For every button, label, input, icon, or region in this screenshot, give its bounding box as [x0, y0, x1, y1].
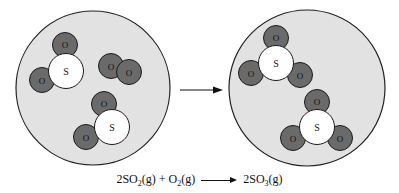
products-container: O O O S O O O S [229, 10, 385, 166]
atom-label-o: O [101, 99, 108, 109]
atom-label-o: O [39, 76, 46, 86]
atom-label-s: S [314, 122, 320, 133]
product-so3: 2SO3(g) [243, 172, 282, 186]
reactant-so2: 2SO2(g) [116, 172, 155, 186]
atom-label-o: O [273, 33, 280, 43]
atom-label-o: O [83, 133, 90, 143]
reactants-container: O O S O O O O S [16, 11, 170, 165]
atom-label-s: S [273, 58, 279, 69]
reactant-o2: O2(g) [169, 172, 196, 186]
chemical-equation: 2SO2(g) + O2(g)2SO3(g) [0, 172, 399, 188]
reaction-diagram: O O S O O O O S [0, 0, 399, 193]
yields-arrow-icon [201, 176, 237, 184]
atom-label-o: O [290, 134, 297, 144]
atom-label-o: O [297, 71, 304, 81]
atom-label-o: O [108, 62, 115, 72]
atom-label-o: O [248, 69, 255, 79]
atom-label-o: O [314, 97, 321, 107]
atom-label-s: S [63, 66, 69, 77]
atom-label-o: O [337, 134, 344, 144]
atom-label-s: S [109, 122, 115, 133]
right-arrow-icon [180, 87, 223, 94]
plus-sign: + [156, 172, 169, 186]
atom-label-o: O [62, 40, 69, 50]
atom-label-o: O [126, 68, 133, 78]
